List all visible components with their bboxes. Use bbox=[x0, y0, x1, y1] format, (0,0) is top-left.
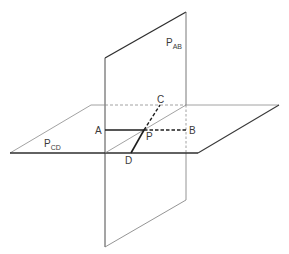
label-point-b: B bbox=[189, 125, 196, 136]
label-point-d: D bbox=[125, 155, 132, 166]
segment-p-c bbox=[144, 105, 160, 130]
label-plane-p-ab: PAB bbox=[166, 37, 182, 50]
label-plane-p-cd: PCD bbox=[44, 138, 61, 151]
label-point-p: P bbox=[146, 131, 153, 142]
label-point-a: A bbox=[95, 125, 102, 136]
intersection-line bbox=[105, 105, 186, 153]
two-planes-diagram: PAB PCD A B C D P bbox=[0, 0, 289, 254]
diagram-canvas: PAB PCD A B C D P bbox=[0, 0, 289, 254]
label-point-c: C bbox=[157, 94, 164, 105]
